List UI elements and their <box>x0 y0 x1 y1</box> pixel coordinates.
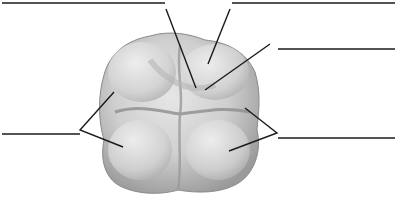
cusp-top-left <box>108 42 176 102</box>
tooth-diagram <box>0 0 395 199</box>
label-top-right <box>234 0 394 2</box>
label-right-lower <box>280 123 394 137</box>
label-top-left <box>4 0 164 2</box>
cusp-top-right <box>181 44 249 100</box>
cusp-bottom-right <box>186 120 250 180</box>
label-right-upper <box>280 34 394 48</box>
molar-tooth <box>100 33 260 193</box>
label-left <box>4 119 80 133</box>
cusp-bottom-left <box>108 120 172 180</box>
